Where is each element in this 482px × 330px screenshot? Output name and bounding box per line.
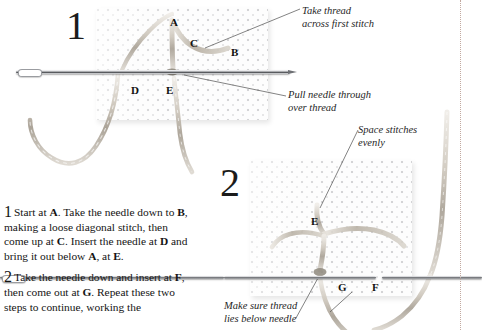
step-number-1: 1 <box>66 6 86 46</box>
annotation-thread-below-needle: Make sure thread lies below needle <box>224 300 297 325</box>
point-label-g-step-2: G <box>338 282 347 293</box>
step-number-2: 2 <box>220 163 240 203</box>
annotation-space-stitches: Space stitches evenly <box>358 124 417 149</box>
point-label-c-step-1: C <box>190 38 198 49</box>
point-label-d-step-1: D <box>131 85 139 96</box>
instruction-body-1: Start at A. Take the needle down to B, m… <box>4 206 188 262</box>
point-label-e-step-1: E <box>166 85 174 96</box>
instruction-body-2: Take the needle down and insert at F, th… <box>4 271 185 312</box>
point-label-b-step-1: B <box>231 47 239 58</box>
needle-step-1 <box>16 70 290 74</box>
page-guide-rule <box>460 0 461 330</box>
instruction-paragraph-1: 1Start at A. Take the needle down to B, … <box>4 205 194 263</box>
needle-step-2-mid <box>224 276 376 279</box>
needle-tip-step-1 <box>288 70 297 74</box>
annotation-take-thread: Take thread across first stitch <box>302 5 374 30</box>
needle-step-2-right <box>382 276 482 279</box>
instruction-lead-number-2: 2 <box>4 268 14 285</box>
point-label-a-step-1: A <box>170 17 178 28</box>
instruction-illustration-page: 1 <box>0 0 482 330</box>
instruction-paragraph-2: 2Take the needle down and insert at F, t… <box>4 270 194 314</box>
fabric-swatch-step-1 <box>96 8 268 120</box>
point-label-e-step-2: E <box>311 216 319 227</box>
needle-eye-step-1 <box>18 69 42 77</box>
instructions-text-block: 1Start at A. Take the needle down to B, … <box>4 205 194 321</box>
instruction-lead-number-1: 1 <box>4 203 14 220</box>
annotation-pull-needle: Pull needle through over thread <box>288 89 371 114</box>
point-label-f-step-2: F <box>372 282 379 293</box>
